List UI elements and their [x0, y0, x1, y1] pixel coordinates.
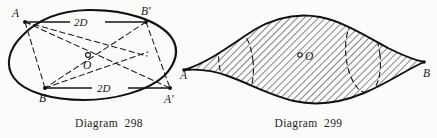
label-O: O	[83, 59, 92, 71]
label-A-prime: A'	[163, 93, 174, 105]
label-A-299: A	[179, 69, 188, 81]
label-B-299: B	[423, 67, 430, 79]
endpoint-dot-B	[422, 60, 426, 64]
dimension-label-2D-bottom: 2D	[97, 82, 111, 94]
diagram-299-drawing: A B O	[180, 0, 437, 115]
vertex-dot-A-prime	[168, 86, 172, 90]
vertex-markers	[23, 20, 172, 90]
construction-lines-dashed	[25, 22, 170, 88]
vertex-dot-B	[43, 86, 47, 90]
vertex-dot-B-prime	[144, 20, 148, 24]
centre-marker-O	[86, 53, 91, 58]
figure-page: A B' B A' O 2D 2D Diagram 298	[0, 0, 437, 138]
hatched-body-fill	[184, 16, 424, 104]
label-B: B	[39, 92, 46, 104]
vertex-dot-A	[23, 20, 27, 24]
label-O-299: O	[305, 50, 314, 62]
label-B-prime: B'	[141, 5, 151, 17]
diagram-299-caption: Diagram 299	[180, 117, 437, 129]
label-A: A	[11, 7, 20, 19]
ellipse-outline	[9, 10, 176, 100]
dimension-label-2D-top: 2D	[74, 16, 88, 28]
